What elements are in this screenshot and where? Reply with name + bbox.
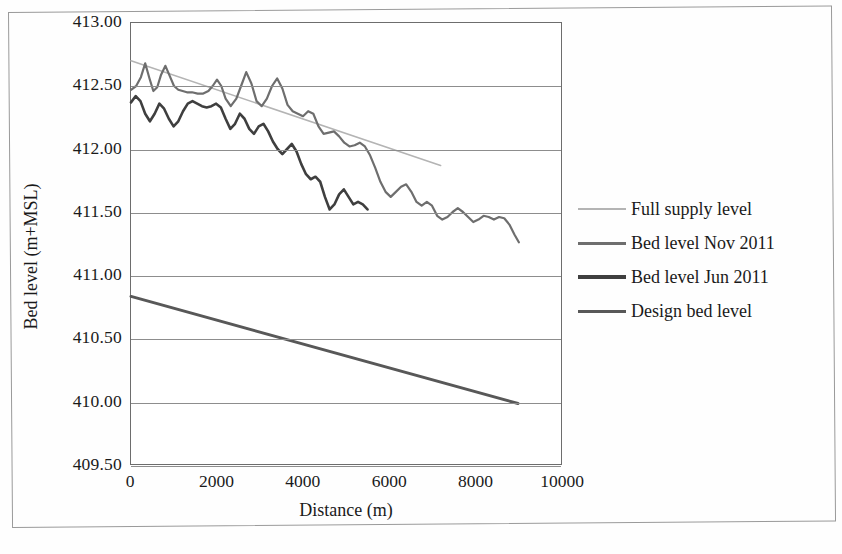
gridline [131,466,561,467]
legend-label: Bed level Nov 2011 [631,233,775,253]
y-tick-label: 409.50 [30,456,122,473]
y-axis-title: Bed level (m+MSL) [21,132,42,382]
series-line [131,296,518,403]
plot-area [130,22,562,465]
figure-page: 413.00412.50412.00411.50411.00410.50410.… [0,0,842,554]
legend-swatch [578,242,626,245]
y-axis-tick-labels: 413.00412.50412.00411.50411.00410.50410.… [30,0,122,554]
y-tick-label: 413.00 [30,13,122,30]
gridline [131,150,561,151]
x-axis-title: Distance (m) [130,500,562,521]
chart-figure: 413.00412.50412.00411.50411.00410.50410.… [0,0,842,554]
gridline [131,276,561,277]
y-tick-label: 410.50 [30,329,122,346]
x-tick-label: 8000 [431,472,521,490]
gridline [131,403,561,404]
legend-swatch [578,275,626,279]
x-tick-label: 0 [85,472,175,490]
legend-swatch [578,310,626,313]
gridline [131,86,561,87]
y-tick-label: 412.50 [30,76,122,93]
x-tick-label: 6000 [344,472,434,490]
series-layer [131,23,561,464]
legend-item[interactable]: Full supply level [578,192,828,226]
y-tick-label: 410.00 [30,393,122,410]
legend-label: Design bed level [631,301,752,321]
y-tick-label: 412.00 [30,140,122,157]
y-tick-label: 411.50 [30,203,122,220]
legend-item[interactable]: Bed level Nov 2011 [578,226,828,260]
x-tick-label: 2000 [171,472,261,490]
legend-item[interactable]: Design bed level [578,294,828,328]
y-tick-label: 411.00 [30,266,122,283]
chart-legend: Full supply levelBed level Nov 2011Bed l… [578,192,828,328]
series-line [131,63,519,242]
legend-label: Bed level Jun 2011 [631,267,769,287]
x-tick-label: 4000 [258,472,348,490]
x-tick-label: 10000 [517,472,607,490]
series-line [131,96,368,209]
legend-label: Full supply level [631,199,752,219]
legend-swatch [578,208,626,210]
gridline [131,339,561,340]
legend-item[interactable]: Bed level Jun 2011 [578,260,828,294]
gridline [131,213,561,214]
